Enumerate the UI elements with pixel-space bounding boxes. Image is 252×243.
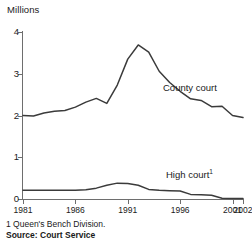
- x-axis-tick: [75, 200, 76, 204]
- x-axis-line: [22, 199, 244, 200]
- x-axis-tick: [128, 200, 129, 204]
- x-axis-tick: [23, 200, 24, 204]
- y-axis-tick-label: 3: [6, 68, 19, 79]
- y-axis-tick-label: 4: [6, 26, 19, 37]
- y-axis-tick-label: 0: [6, 193, 19, 204]
- x-axis-tick-label: 1991: [118, 205, 137, 215]
- x-axis-tick: [180, 200, 181, 204]
- chart-container: Millions 01234 198119861991199620012002 …: [0, 0, 252, 243]
- footnote-note: 1 Queen's Bench Division.: [6, 219, 105, 229]
- y-axis-title: Millions: [7, 4, 39, 15]
- x-axis-tick-label: 1986: [66, 205, 85, 215]
- series-label-high-court: High court1: [166, 168, 213, 180]
- x-axis-tick-label: 1996: [171, 205, 190, 215]
- series-label-high-court-text: High court: [166, 169, 209, 180]
- x-axis-tick: [233, 200, 234, 204]
- x-axis-tick: [243, 200, 244, 204]
- series-label-county-court: County court: [163, 82, 217, 93]
- x-axis-tick-label: 1981: [14, 205, 33, 215]
- y-axis-tick-label: 1: [6, 151, 19, 162]
- series-line-high-court: [23, 183, 243, 198]
- x-axis-tick-label: 2002: [234, 205, 252, 215]
- footnote-source: Source: Court Service: [6, 230, 95, 240]
- series-label-county-court-text: County court: [163, 82, 217, 93]
- y-axis-tick-label: 2: [6, 110, 19, 121]
- series-label-high-court-footnote-marker: 1: [209, 168, 213, 175]
